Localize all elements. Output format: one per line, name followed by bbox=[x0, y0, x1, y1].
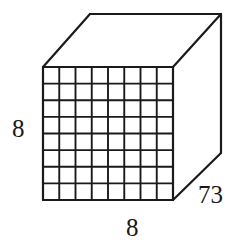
cube-drawing bbox=[0, 0, 237, 246]
height-dimension-label: 8 bbox=[12, 116, 25, 141]
depth-dimension-label: 73 bbox=[198, 182, 223, 207]
width-dimension-label: 8 bbox=[126, 215, 139, 240]
cube-figure: 8 8 73 bbox=[0, 0, 237, 246]
